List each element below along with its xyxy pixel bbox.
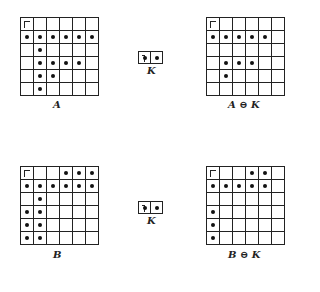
pixel-dot <box>51 184 55 188</box>
grid-cell <box>259 31 272 44</box>
grid-cell <box>86 18 99 31</box>
grid-cell <box>60 31 73 44</box>
grid-cell <box>272 18 285 31</box>
kernel-K_top <box>138 51 163 64</box>
pixel-dot <box>211 35 215 39</box>
grid-cell <box>233 18 246 31</box>
grid-cell <box>21 232 34 245</box>
pixel-dot <box>250 171 254 175</box>
grid-cell <box>259 219 272 232</box>
grid-cell <box>233 70 246 83</box>
pixel-dot <box>211 210 215 214</box>
grid-cell <box>60 219 73 232</box>
grid-cell <box>246 57 259 70</box>
grid-cell <box>60 18 73 31</box>
pixel-dot <box>211 223 215 227</box>
pixel-dot <box>25 223 29 227</box>
grid-cell <box>60 44 73 57</box>
pixel-dot <box>38 184 42 188</box>
grid-cell <box>220 232 233 245</box>
pixel-dot <box>38 210 42 214</box>
grid-cell <box>21 44 34 57</box>
grid-cell <box>47 219 60 232</box>
grid-cell <box>86 44 99 57</box>
grid-cell <box>207 232 220 245</box>
grid-cell <box>34 167 47 180</box>
grid-cell <box>60 70 73 83</box>
grid-cell <box>73 219 86 232</box>
grid-cell <box>272 193 285 206</box>
grid-cell <box>246 167 259 180</box>
grid-cell <box>73 206 86 219</box>
label-A-erode-K: A ⊖ K <box>228 99 260 110</box>
grid-cell <box>259 167 272 180</box>
grid-cell <box>34 18 47 31</box>
grid-cell <box>21 206 34 219</box>
pixel-dot <box>38 236 42 240</box>
grid-cell <box>233 193 246 206</box>
label-K-bottom: K <box>147 215 156 226</box>
grid-cell <box>34 180 47 193</box>
grid-cell <box>207 83 220 96</box>
grid-cell <box>246 206 259 219</box>
grid-cell <box>34 206 47 219</box>
grid-cell <box>73 31 86 44</box>
grid-cell <box>259 57 272 70</box>
grid-cell <box>259 193 272 206</box>
grid-cell <box>21 31 34 44</box>
pixel-dot <box>38 61 42 65</box>
pixel-dot <box>90 184 94 188</box>
pixel-dot <box>263 184 267 188</box>
grid-cell <box>207 44 220 57</box>
grid-cell <box>21 167 34 180</box>
grid-cell <box>220 193 233 206</box>
grid-cell <box>73 18 86 31</box>
pixel-dot <box>51 35 55 39</box>
origin-marker-icon <box>210 170 216 177</box>
grid-cell <box>207 57 220 70</box>
origin-marker-icon <box>24 21 30 28</box>
grid-cell <box>220 180 233 193</box>
grid-cell <box>207 70 220 83</box>
pixel-dot <box>77 35 81 39</box>
kernel-K_bottom <box>138 201 163 214</box>
pixel-dot <box>77 61 81 65</box>
grid-cell <box>246 31 259 44</box>
grid-cell <box>34 44 47 57</box>
grid-cell <box>73 44 86 57</box>
grid-cell <box>47 57 60 70</box>
grid-cell <box>207 193 220 206</box>
grid-cell <box>34 232 47 245</box>
grid-cell <box>60 83 73 96</box>
grid-cell <box>60 193 73 206</box>
grid-cell <box>47 83 60 96</box>
grid-cell <box>21 219 34 232</box>
grid-cell <box>34 57 47 70</box>
pixel-dot <box>250 61 254 65</box>
pixel-dot <box>38 223 42 227</box>
pixel-dot <box>224 61 228 65</box>
grid-cell <box>220 70 233 83</box>
grid-cell <box>259 18 272 31</box>
label-A: A <box>53 99 61 110</box>
pixel-dot <box>211 184 215 188</box>
grid-cell <box>272 232 285 245</box>
grid-cell <box>73 70 86 83</box>
grid-cell <box>220 83 233 96</box>
pixel-dot <box>224 74 228 78</box>
pixel-dot <box>211 236 215 240</box>
grid-cell <box>233 83 246 96</box>
pixel-dot <box>90 171 94 175</box>
pixel-dot <box>224 35 228 39</box>
pixel-dot <box>250 35 254 39</box>
grid-cell <box>207 206 220 219</box>
grid-cell <box>21 180 34 193</box>
grid-cell <box>220 31 233 44</box>
grid-cell <box>246 180 259 193</box>
grid-cell <box>246 219 259 232</box>
pixel-dot <box>25 35 29 39</box>
grid-cell <box>47 193 60 206</box>
grid-cell <box>233 167 246 180</box>
grid-cell <box>73 180 86 193</box>
origin-marker-icon <box>210 21 216 28</box>
